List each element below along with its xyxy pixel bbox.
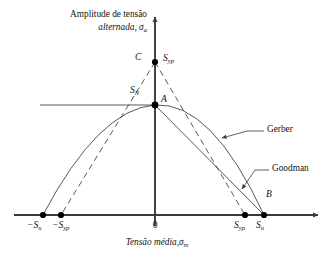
point-marker-a: [152, 102, 159, 109]
x-axis-label: Tensão média,σm: [92, 237, 222, 249]
tick-label-negative-su-subscript: u: [38, 224, 41, 231]
tick-label-negative-syp-subscript: yp: [63, 224, 69, 231]
point-label-sn-subscript: N: [135, 89, 139, 96]
tick-label-negative-syp-text: −S: [52, 220, 63, 230]
y-axis-label-subscript: a: [144, 26, 147, 33]
point-marker-c: [152, 59, 158, 65]
tick-label-positive-syp-subscript: yp: [239, 224, 245, 231]
gerber-curve-left: [43, 105, 155, 215]
y-axis-label: Amplitude de tensão alternada, σa: [47, 8, 147, 33]
point-label-sn: SN: [130, 85, 139, 97]
annotation-goodman: Goodman: [272, 163, 309, 175]
y-axis-label-line1: Amplitude de tensão: [70, 9, 147, 19]
point-label-syp-top: Syp: [163, 53, 174, 65]
point-marker-b: [261, 212, 267, 218]
point-marker-pos-syp: [242, 212, 248, 218]
tick-label-negative-syp: −Syp: [52, 220, 69, 232]
annotation-gerber: Gerber: [267, 124, 293, 136]
tick-label-positive-su-subscript: u: [261, 224, 264, 231]
yield-line-right-dashed: [155, 62, 245, 215]
origin-tick-label: 0: [145, 220, 165, 232]
point-label-a: A: [161, 94, 167, 106]
haigh-diagram-figure: Amplitude de tensão alternada, σa Tensão…: [0, 0, 335, 258]
point-marker-neg-syp: [58, 212, 64, 218]
point-label-b: B: [266, 189, 272, 201]
y-axis-label-line2: alternada, σa: [98, 22, 147, 32]
point-label-syp-top-subscript: yp: [168, 57, 174, 64]
goodman-line: [155, 105, 264, 215]
tick-label-positive-su: Su: [256, 220, 264, 232]
point-marker-neg-su: [40, 212, 46, 218]
tick-label-negative-su: −Su: [27, 220, 41, 232]
x-axis-label-subscript: m: [184, 241, 189, 248]
gerber-leader-line: [222, 131, 264, 138]
tick-label-negative-su-text: −S: [27, 220, 38, 230]
tick-label-positive-syp: Syp: [234, 220, 245, 232]
x-axis-label-text: Tensão média,σ: [126, 237, 184, 247]
point-label-c: C: [135, 52, 141, 64]
yield-line-left-dashed: [61, 62, 155, 215]
